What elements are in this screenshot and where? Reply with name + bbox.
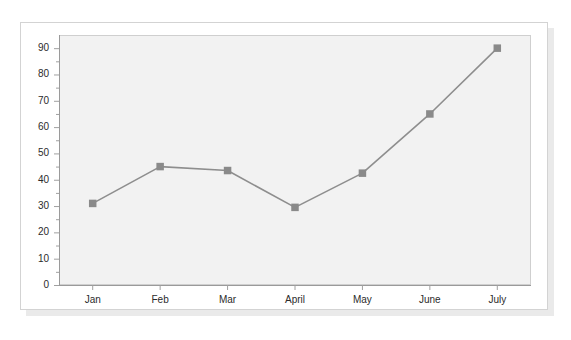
line-chart: 0102030405060708090 JanFebMarAprilMayJun… (21, 23, 549, 311)
x-tick-label: Mar (198, 295, 258, 305)
x-tick-label: June (400, 295, 460, 305)
x-tick-label: July (467, 295, 527, 305)
y-tick-label: 70 (23, 96, 49, 106)
data-point-marker (156, 163, 164, 171)
y-tick-label: 20 (23, 227, 49, 237)
x-tick-label: Feb (130, 295, 190, 305)
data-point-marker (426, 110, 434, 118)
data-point-marker (359, 169, 367, 177)
chart-card: 0102030405060708090 JanFebMarAprilMayJun… (20, 22, 548, 310)
x-tick-label: April (265, 295, 325, 305)
data-point-marker (291, 204, 299, 212)
y-tick-label: 60 (23, 122, 49, 132)
chart-svg (21, 23, 549, 311)
data-point-marker (89, 200, 97, 208)
y-tick-label: 0 (23, 280, 49, 290)
y-tick-label: 50 (23, 148, 49, 158)
y-tick-label: 90 (23, 43, 49, 53)
data-point-markers (89, 44, 501, 211)
x-tick-label: Jan (63, 295, 123, 305)
y-tick-label: 30 (23, 201, 49, 211)
data-point-marker (494, 44, 502, 52)
page-root: 0102030405060708090 JanFebMarAprilMayJun… (0, 0, 571, 340)
x-tick-label: May (332, 295, 392, 305)
y-tick-label: 80 (23, 69, 49, 79)
data-series-line (93, 48, 498, 207)
y-tick-label: 40 (23, 175, 49, 185)
data-point-marker (224, 167, 232, 175)
y-axis-minor-ticks (56, 62, 59, 273)
y-tick-label: 10 (23, 254, 49, 264)
